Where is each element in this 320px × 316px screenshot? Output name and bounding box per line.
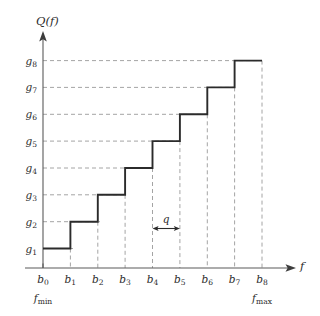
- x-tick-sub: 8: [263, 278, 268, 287]
- vertical-gridlines: [70, 61, 262, 268]
- x-tick-base: b: [92, 273, 99, 285]
- x-axis-title: f: [300, 261, 304, 273]
- y-tick-sub: 6: [32, 113, 37, 122]
- y-tick-label-g8: g8: [18, 56, 37, 68]
- y-axis: [39, 31, 47, 268]
- y-tick-label-g1: g1: [18, 244, 37, 256]
- x-tick-label-b4: b4: [142, 274, 164, 286]
- q-annotation-label: q: [156, 214, 176, 225]
- y-tick-sub: 3: [32, 193, 37, 202]
- x-tick-base: b: [174, 273, 181, 285]
- x-tick-sub: 6: [208, 278, 213, 287]
- x-tick-label-b6: b6: [196, 274, 218, 286]
- x-tick-label-b3: b3: [114, 274, 136, 286]
- chart-canvas: [0, 0, 320, 316]
- y-tick-label-g5: g5: [18, 136, 37, 148]
- y-tick-sub: 5: [32, 140, 37, 149]
- f-max-label: fmax: [247, 293, 277, 305]
- f-min-sub: min: [38, 297, 52, 306]
- x-tick-label-b1: b1: [59, 274, 81, 286]
- y-axis-title-text: Q(f): [36, 14, 59, 28]
- x-tick-sub: 7: [236, 278, 241, 287]
- y-tick-label-g3: g3: [18, 190, 37, 202]
- x-tick-label-b7: b7: [224, 274, 246, 286]
- x-tick-label-b0: b0: [32, 274, 54, 286]
- f-min-label: fmin: [28, 293, 58, 305]
- x-tick-sub: 0: [44, 278, 49, 287]
- y-tick-label-g2: g2: [18, 217, 37, 229]
- q-label-text: q: [163, 213, 170, 225]
- y-tick-sub: 4: [32, 167, 37, 176]
- q-span-arrow: [153, 226, 180, 231]
- x-tick-label-b5: b5: [169, 274, 191, 286]
- x-tick-label-b2: b2: [87, 274, 109, 286]
- y-tick-label-g4: g4: [18, 163, 37, 175]
- y-tick-label-g7: g7: [18, 82, 37, 94]
- y-tick-sub: 1: [32, 247, 37, 256]
- y-tick-sub: 2: [32, 220, 37, 229]
- y-tick-sub: 7: [32, 86, 37, 95]
- x-tick-sub: 2: [99, 278, 104, 287]
- x-tick-label-b8: b8: [251, 274, 273, 286]
- x-axis: [25, 264, 296, 272]
- x-tick-sub: 3: [126, 278, 131, 287]
- quantization-staircase-figure: Q(f) f g1 g2 g3 g4 g5 g6 g7 g8 b0 b1 b2 …: [0, 0, 320, 316]
- x-tick-sub: 4: [153, 278, 158, 287]
- y-tick-label-g6: g6: [18, 109, 37, 121]
- x-tick-base: b: [256, 273, 263, 285]
- x-tick-sub: 5: [181, 278, 186, 287]
- x-tick-sub: 1: [71, 278, 76, 287]
- x-tick-base: b: [37, 273, 44, 285]
- x-axis-title-text: f: [300, 259, 304, 273]
- y-axis-title: Q(f): [36, 16, 59, 28]
- f-max-sub: max: [256, 297, 272, 306]
- y-tick-sub: 8: [32, 59, 37, 68]
- x-tick-base: b: [229, 273, 236, 285]
